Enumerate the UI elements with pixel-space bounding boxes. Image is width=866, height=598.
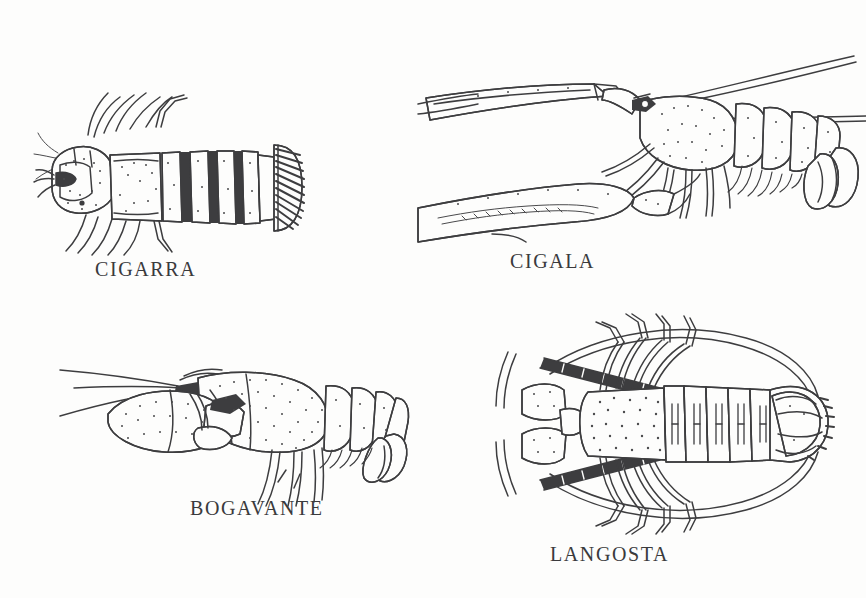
caption-cigarra: CIGARRA	[95, 258, 196, 281]
figure-langosta	[460, 310, 860, 540]
figure-cigala	[418, 38, 866, 258]
figure-bogavante	[50, 330, 410, 510]
caption-cigala: CIGALA	[510, 250, 595, 273]
figure-cigarra	[30, 75, 310, 255]
caption-bogavante: BOGAVANTE	[190, 497, 324, 520]
illustration-plate: CIGARRA	[0, 0, 866, 598]
caption-langosta: LANGOSTA	[550, 543, 669, 566]
